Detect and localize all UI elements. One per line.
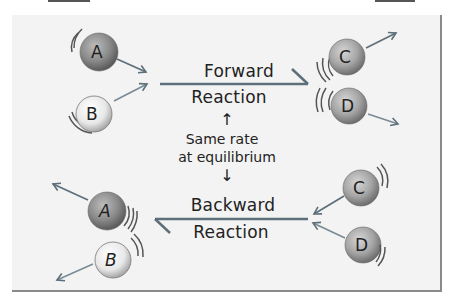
note-line1: Same rate	[172, 131, 272, 147]
molecule-label-b: B	[86, 104, 98, 124]
molecule-a-backward	[53, 184, 137, 232]
molecule-d-forward	[316, 88, 398, 124]
molecule-label-a: A	[99, 201, 111, 221]
note-line2: at equilibrium	[172, 149, 282, 165]
molecule-b-backward	[57, 234, 143, 280]
molecule-a-forward	[72, 29, 146, 72]
molecule-label-d: D	[355, 235, 368, 255]
molecule-c-forward	[317, 33, 396, 82]
molecule-label-d: D	[341, 96, 354, 116]
molecule-d-backward	[313, 223, 385, 266]
molecule-c-backward	[314, 164, 388, 214]
backward-label-top: Backward	[178, 195, 288, 215]
down-arrow: ↓	[212, 166, 242, 185]
forward-label-bottom: Reaction	[174, 87, 284, 107]
molecule-label-c: C	[339, 47, 351, 67]
forward-label-top: Forward	[184, 61, 294, 81]
molecule-label-b: B	[105, 250, 117, 270]
molecule-label-c: C	[353, 178, 365, 198]
molecule-label-a: A	[91, 42, 103, 62]
up-arrow: ↑	[212, 110, 242, 129]
backward-label-bottom: Reaction	[176, 222, 286, 242]
molecule-b-forward	[69, 84, 147, 133]
